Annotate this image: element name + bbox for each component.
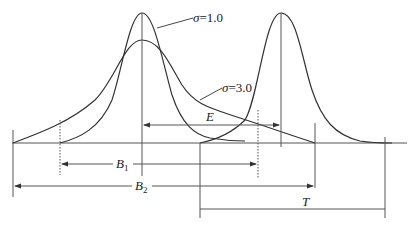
- narrow-peak-curve: [60, 13, 245, 143]
- sigma1-label: σ=1.0: [193, 11, 223, 24]
- e-label: E: [206, 110, 214, 123]
- b1-arrow-left: [61, 162, 68, 167]
- sigma1-value: 1.0: [207, 10, 223, 25]
- e-arrow-left: [143, 123, 150, 128]
- broad-peak-curve: [13, 40, 315, 143]
- e-arrow-right: [273, 123, 280, 128]
- sigma3-leader: [200, 88, 222, 100]
- b1-letter: B: [116, 156, 124, 171]
- right-peak-curve: [200, 13, 392, 143]
- sigma3-value: 3.0: [236, 80, 252, 95]
- sigma3-label: σ=3.0: [222, 81, 252, 94]
- b1-label: B1: [116, 157, 128, 173]
- sigma3-eq: =: [228, 80, 235, 95]
- b1-arrow-right: [250, 162, 257, 167]
- sigma1-leader: [157, 18, 193, 28]
- b2-letter: B: [135, 178, 143, 193]
- b2-arrow-left: [14, 184, 21, 189]
- b2-arrow-right: [307, 184, 314, 189]
- t-label: T: [302, 195, 309, 208]
- b2-label: B2: [135, 179, 147, 195]
- sigma1-eq: =: [199, 10, 206, 25]
- b2-subscript: 2: [143, 185, 148, 195]
- b1-subscript: 1: [124, 163, 129, 173]
